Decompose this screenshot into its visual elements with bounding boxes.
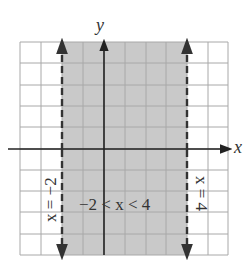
y-axis-label: y xyxy=(94,15,104,35)
left-boundary-label: x = −2 xyxy=(41,177,60,222)
coordinate-plane: y x x = −2 x = 4 −2 < x < 4 xyxy=(0,0,252,268)
region-label: −2 < x < 4 xyxy=(79,195,151,214)
right-boundary-label: x = 4 xyxy=(192,176,211,212)
x-axis-label: x xyxy=(233,137,242,157)
